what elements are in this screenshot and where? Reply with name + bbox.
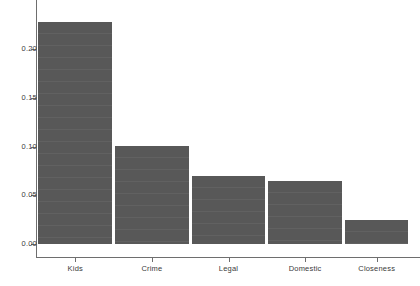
y-tick-label-wrap: 0.15	[0, 94, 37, 102]
x-tick-label-crime: Crime	[112, 264, 192, 273]
y-tick-label-wrap: 0.05	[0, 191, 37, 199]
x-axis-line	[36, 257, 420, 258]
y-tick-label: 0.05	[9, 191, 37, 199]
bar-chart: 0.000.050.100.150.20 KidsCrimeLegalDomes…	[0, 0, 420, 286]
y-tick-label: 0.10	[9, 143, 37, 151]
y-tick-label: 0.15	[9, 94, 37, 102]
y-tick-label: 0.20	[9, 45, 37, 53]
y-tick-label-wrap: 0.00	[0, 240, 37, 248]
x-tick-mark	[305, 258, 306, 262]
x-tick-mark	[152, 258, 153, 262]
x-tick-mark	[75, 258, 76, 262]
x-tick-mark	[377, 258, 378, 262]
x-tick-label-legal: Legal	[189, 264, 269, 273]
y-tick-label: 0.00	[9, 240, 37, 248]
y-tick-label-wrap: 0.10	[0, 143, 37, 151]
y-tick-label-wrap: 0.20	[0, 45, 37, 53]
bar-domestic	[268, 181, 342, 244]
bar-crime	[115, 146, 189, 244]
bar-kids	[38, 22, 112, 244]
x-tick-label-closeness: Closeness	[337, 264, 417, 273]
bar-legal	[192, 176, 266, 244]
x-tick-label-domestic: Domestic	[265, 264, 345, 273]
x-tick-label-kids: Kids	[35, 264, 115, 273]
x-tick-mark	[229, 258, 230, 262]
bar-closeness	[345, 220, 409, 244]
y-axis-line	[36, 0, 37, 258]
plot-area	[37, 0, 420, 244]
